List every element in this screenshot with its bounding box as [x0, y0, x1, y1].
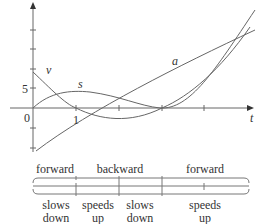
- label-s: s: [78, 78, 83, 90]
- label-a: a: [172, 55, 178, 67]
- motion-graph: [0, 0, 267, 224]
- direction-backward: backward: [90, 163, 150, 176]
- curve-v: [33, 27, 250, 119]
- x-tick-1: 1: [73, 114, 79, 126]
- label-v: v: [46, 64, 51, 76]
- y-tick-5: 5: [22, 83, 28, 95]
- y-tick-0: 0: [24, 112, 30, 124]
- speed-segment-2: speeds up: [78, 199, 118, 224]
- curve-s: [33, 10, 255, 108]
- speed-segment-3: slows down: [120, 199, 160, 224]
- speed-bracket: [33, 189, 249, 194]
- direction-forward-2: forward: [175, 163, 235, 176]
- x-axis-label: t: [250, 112, 253, 124]
- curve-a: [36, 30, 255, 151]
- direction-forward-1: forward: [34, 163, 76, 176]
- direction-bracket: [33, 178, 249, 183]
- speed-segment-4: speeds up: [184, 199, 226, 224]
- speed-segment-1: slows down: [36, 199, 76, 224]
- y-axis-arrow-icon: [30, 2, 36, 9]
